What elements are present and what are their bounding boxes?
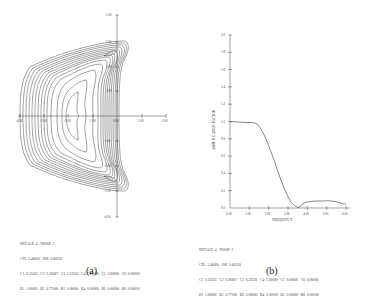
panel-a-caption-line-4: B1 1.00000 B2 0.77000 B3 0.00000 B4 0.00… bbox=[20, 287, 140, 292]
svg-text:4.00: 4.00 bbox=[303, 212, 309, 216]
svg-text:-1.00: -1.00 bbox=[104, 139, 111, 143]
svg-text:1.6: 1.6 bbox=[221, 68, 225, 72]
svg-text:0.2: 0.2 bbox=[221, 189, 225, 193]
svg-text:0.0: 0.0 bbox=[221, 206, 225, 210]
svg-text:1.00: 1.00 bbox=[106, 89, 112, 93]
panel-b-xlabel: FREQUENCY bbox=[272, 218, 293, 222]
svg-text:1.00: 1.00 bbox=[245, 212, 251, 216]
svg-text:-2.00: -2.00 bbox=[64, 119, 71, 123]
svg-text:-4.00: -4.00 bbox=[104, 215, 111, 219]
panel-b-caption-line-4: B1 1.00000 B2 0.77000 B3 0.00000 B4 0.00… bbox=[199, 293, 319, 298]
svg-text:0.6: 0.6 bbox=[221, 154, 225, 158]
svg-text:1.00: 1.00 bbox=[106, 65, 112, 69]
svg-text:2.00: 2.00 bbox=[162, 119, 168, 123]
panel-b-caption-line-2: CFL 2.40000 DSI 0.66250 bbox=[199, 263, 319, 268]
amplification-curve bbox=[230, 122, 346, 208]
svg-text:1.8: 1.8 bbox=[221, 50, 225, 54]
svg-text:3.00: 3.00 bbox=[106, 13, 112, 17]
svg-text:6.00: 6.00 bbox=[342, 212, 348, 216]
svg-text:0.4: 0.4 bbox=[221, 171, 225, 175]
svg-text:1.00: 1.00 bbox=[138, 119, 144, 123]
svg-text:-2.00: -2.00 bbox=[104, 164, 111, 168]
svg-text:2.0: 2.0 bbox=[221, 33, 225, 37]
svg-text:-1.00: -1.00 bbox=[89, 119, 96, 123]
panel-a-caption-line-2: CFL 2.40000 DSI 0.66250 bbox=[20, 257, 140, 262]
svg-text:1.4: 1.4 bbox=[221, 85, 225, 89]
panel-b-label: (b) bbox=[266, 265, 278, 276]
panel-a-caption: NSTAGE 4 NSSSP 2 CFL 2.40000 DSI 0.66250… bbox=[20, 232, 140, 297]
panel-a-caption-line-3: C1 0.33333 C2 0.26667 C3 0.33556 C4 1.00… bbox=[20, 272, 140, 277]
svg-text:3.00: 3.00 bbox=[284, 212, 290, 216]
svg-text:0.8: 0.8 bbox=[221, 137, 225, 141]
panel-b-ylabel: AMPLIFICATION FACTOR bbox=[212, 109, 216, 150]
svg-text:0.00: 0.00 bbox=[113, 119, 119, 123]
svg-text:2.00: 2.00 bbox=[106, 40, 112, 44]
svg-text:1.0: 1.0 bbox=[221, 120, 225, 124]
panel-b-caption-line-3: C1 0.33333 C2 0.26667 C3 0.33556 C4 1.00… bbox=[199, 278, 319, 283]
svg-text:-3.00: -3.00 bbox=[40, 119, 47, 123]
panel-b-caption-line-1: NSTAGE 4 NSSSP 2 bbox=[199, 248, 319, 253]
panel-a-caption-line-1: NSTAGE 4 NSSSP 2 bbox=[20, 242, 140, 247]
svg-text:2.00: 2.00 bbox=[265, 212, 271, 216]
svg-text:5.00: 5.00 bbox=[323, 212, 329, 216]
svg-text:-3.00: -3.00 bbox=[104, 189, 111, 193]
panel-a-label: (a) bbox=[86, 265, 97, 276]
svg-text:0.00: 0.00 bbox=[226, 212, 232, 216]
svg-text:-4.00: -4.00 bbox=[16, 119, 23, 123]
svg-text:1.2: 1.2 bbox=[221, 102, 225, 106]
panel-b-plot: 2.0 1.8 1.6 1.4 1.2 1.0 0.8 0.6 0.4 0.2 … bbox=[212, 33, 350, 222]
panel-a-plot bbox=[18, 15, 166, 217]
panel-b-caption: NSTAGE 4 NSSSP 2 CFL 2.40000 DSI 0.66250… bbox=[199, 238, 319, 300]
